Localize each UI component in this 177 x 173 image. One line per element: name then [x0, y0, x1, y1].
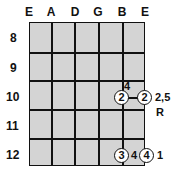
annotation-label: 1 — [157, 149, 163, 161]
grid-line — [74, 23, 76, 165]
row-label: 10 — [6, 90, 19, 104]
col-label: D — [68, 5, 82, 19]
annotation-label: 2,5 — [155, 91, 170, 103]
marker-circle: 2 — [114, 90, 129, 105]
marker-circle: 2 — [137, 90, 152, 105]
grid-line — [51, 23, 53, 165]
row-label: 12 — [6, 148, 19, 162]
row-label: 11 — [6, 119, 19, 133]
marker-circle: 3 — [114, 148, 129, 163]
annotation-label: 4 — [124, 80, 130, 92]
col-label: G — [91, 5, 105, 19]
grid-line — [30, 52, 144, 54]
grid-line — [98, 23, 100, 165]
marker-circle: 4 — [139, 148, 154, 163]
row-label: 9 — [10, 61, 17, 75]
col-label: B — [115, 5, 129, 19]
grid-line — [30, 109, 144, 111]
annotation-label: 4 — [131, 149, 137, 161]
row-label: 8 — [10, 31, 17, 45]
annotation-label: R — [156, 106, 164, 118]
col-label: E — [22, 5, 36, 19]
col-label: E — [138, 5, 152, 19]
grid-line — [30, 138, 144, 140]
col-label: A — [44, 5, 58, 19]
